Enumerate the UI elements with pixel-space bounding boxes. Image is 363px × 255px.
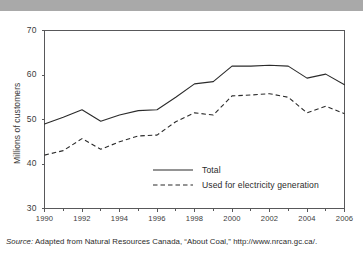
legend-swatch-solid-icon — [153, 166, 193, 174]
chart-legend: Total Used for electricity generation — [153, 162, 353, 192]
series-line-1 — [45, 65, 345, 124]
legend-label-electricity: Used for electricity generation — [202, 180, 319, 190]
source-note: Source: Adapted from Natural Resources C… — [6, 237, 317, 246]
legend-swatch-dashed-icon — [153, 181, 193, 189]
cropped-title-strip — [0, 0, 363, 11]
source-prefix: Source: — [6, 237, 33, 246]
data-series-group — [45, 65, 345, 155]
legend-label-total: Total — [202, 165, 221, 175]
source-text: Adapted from Natural Resources Canada, “… — [35, 237, 317, 246]
legend-item-electricity: Used for electricity generation — [153, 177, 353, 192]
series-line-2 — [45, 94, 345, 155]
chart-plot-area: Millions of customers 3040506070 1990199… — [0, 11, 363, 227]
figure-container: Millions of customers 3040506070 1990199… — [0, 0, 363, 255]
line-chart-svg — [0, 11, 363, 227]
legend-item-total: Total — [153, 162, 353, 177]
